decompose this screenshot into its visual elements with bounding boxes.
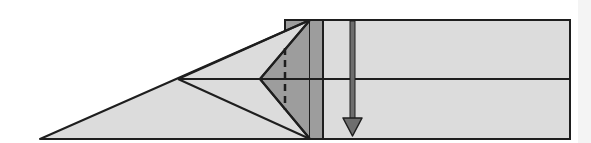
page-edge-shadow [578, 0, 591, 143]
origami-diagram [0, 0, 591, 143]
